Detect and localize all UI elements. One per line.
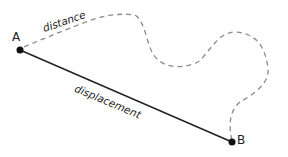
displacement-line (20, 50, 232, 142)
point-b-label: B (237, 133, 245, 147)
point-a-label: A (12, 30, 20, 44)
point-a-dot (17, 47, 24, 54)
distance-path (24, 14, 268, 140)
distance-displacement-diagram: A B distance displacement (0, 0, 288, 157)
point-b-dot (229, 139, 236, 146)
